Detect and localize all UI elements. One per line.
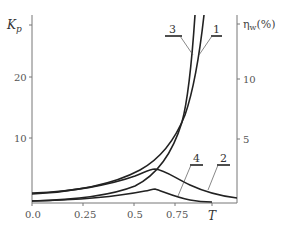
- y-left-title: Kp: [6, 18, 22, 34]
- y-left-tick-label: 10: [14, 133, 27, 144]
- x-tick-label: 0.0: [25, 209, 41, 220]
- x-tick-label: 0.75: [166, 209, 188, 220]
- y-right-tick-label: 10: [243, 74, 256, 85]
- label-2-leader: [208, 165, 218, 190]
- y-right-tick-label: 5: [243, 134, 249, 145]
- curve-1: [32, 15, 204, 193]
- x-axis-title: T: [208, 209, 217, 223]
- curve-label-3: 3: [169, 23, 176, 36]
- y-right-title: ηw(%): [243, 18, 276, 32]
- chart: Kp 20 10 ηw(%) 10 5 0.0 0.25 0.5 0.75 T …: [0, 0, 282, 229]
- x-tick-label: 0.5: [127, 209, 143, 220]
- x-tick-label: 0.25: [74, 209, 96, 220]
- label-3-leader: [180, 36, 193, 55]
- y-left-tick-label: 20: [14, 72, 27, 83]
- curve-3: [32, 15, 195, 201]
- curve-label-2: 2: [220, 152, 227, 165]
- curve-label-1: 1: [213, 23, 220, 36]
- curve-label-4: 4: [193, 152, 200, 165]
